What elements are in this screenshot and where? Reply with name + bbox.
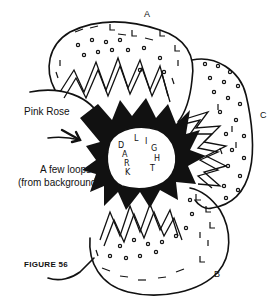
center-letter-g: G	[151, 144, 157, 153]
center-letter-a: A	[122, 150, 127, 159]
center-letter-h: H	[154, 154, 160, 163]
figure-56-illustration: A C B Pink Rose A few loops (from backgr…	[0, 0, 278, 304]
petal-c-label: C	[260, 109, 267, 121]
center-letter-d: D	[118, 141, 124, 150]
loops-label-line2: (from background)	[18, 177, 100, 189]
center-letter-r: R	[124, 159, 130, 168]
loops-label-line1: A few loops	[40, 164, 91, 176]
center-letter-k: K	[125, 168, 130, 177]
petal-b-label: B	[214, 268, 220, 280]
center-letter-t: T	[150, 164, 155, 173]
center-letter-i: I	[145, 137, 147, 146]
petal-a-label: A	[144, 8, 150, 20]
center-letter-l: L	[134, 134, 138, 143]
figure-caption: FIGURE 56	[24, 259, 68, 271]
pink-rose-label: Pink Rose	[24, 106, 70, 118]
